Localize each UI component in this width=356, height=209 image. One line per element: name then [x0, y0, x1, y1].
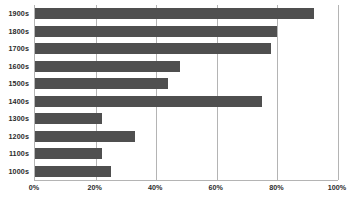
bar[interactable] [35, 166, 111, 177]
bar[interactable] [35, 96, 262, 107]
x-axis-tick-label: 100% [328, 183, 346, 192]
y-axis-tick-label: 1400s [0, 93, 33, 111]
y-axis-category-labels: 1900s1800s1700s1600s1500s1400s1300s1200s… [0, 5, 33, 180]
bar[interactable] [35, 113, 102, 124]
x-axis-tick-label: 80% [269, 183, 283, 192]
bar-slot [35, 23, 338, 41]
y-axis-tick-label: 1700s [0, 40, 33, 58]
plot-area [34, 5, 338, 181]
bar-slot [35, 93, 338, 111]
x-axis-tick-label: 60% [209, 183, 223, 192]
y-axis-tick-label: 1200s [0, 128, 33, 146]
bar-slot [35, 58, 338, 76]
bar-slot [35, 5, 338, 23]
bar-chart: 1900s1800s1700s1600s1500s1400s1300s1200s… [0, 0, 356, 209]
y-axis-tick-label: 1100s [0, 145, 33, 163]
bar-slot [35, 40, 338, 58]
bar[interactable] [35, 61, 180, 72]
bar-slot [35, 128, 338, 146]
bar[interactable] [35, 8, 314, 19]
x-axis-tick-label: 0% [29, 183, 39, 192]
bar[interactable] [35, 131, 135, 142]
bar-slot [35, 110, 338, 128]
y-axis-tick-label: 1800s [0, 23, 33, 41]
y-axis-tick-label: 1600s [0, 58, 33, 76]
bar[interactable] [35, 43, 271, 54]
y-axis-tick-label: 1900s [0, 5, 33, 23]
x-axis-tick-label: 20% [87, 183, 101, 192]
y-axis-tick-label: 1300s [0, 110, 33, 128]
bar[interactable] [35, 26, 277, 37]
bar-slot [35, 145, 338, 163]
x-axis-value-labels: 0%20%40%60%80%100% [34, 183, 337, 197]
bar-slot [35, 163, 338, 181]
x-axis-tick-label: 40% [148, 183, 162, 192]
bar-series [35, 5, 338, 180]
bar-slot [35, 75, 338, 93]
gridline [338, 5, 339, 180]
bar[interactable] [35, 148, 102, 159]
y-axis-tick-label: 1500s [0, 75, 33, 93]
bar[interactable] [35, 78, 168, 89]
y-axis-tick-label: 1000s [0, 163, 33, 181]
